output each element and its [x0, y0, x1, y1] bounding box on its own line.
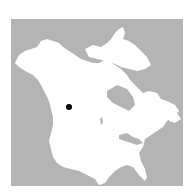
location-marker — [66, 104, 72, 110]
land-mainland — [15, 39, 179, 185]
locator-map — [11, 19, 183, 186]
north-america-map — [11, 19, 183, 186]
